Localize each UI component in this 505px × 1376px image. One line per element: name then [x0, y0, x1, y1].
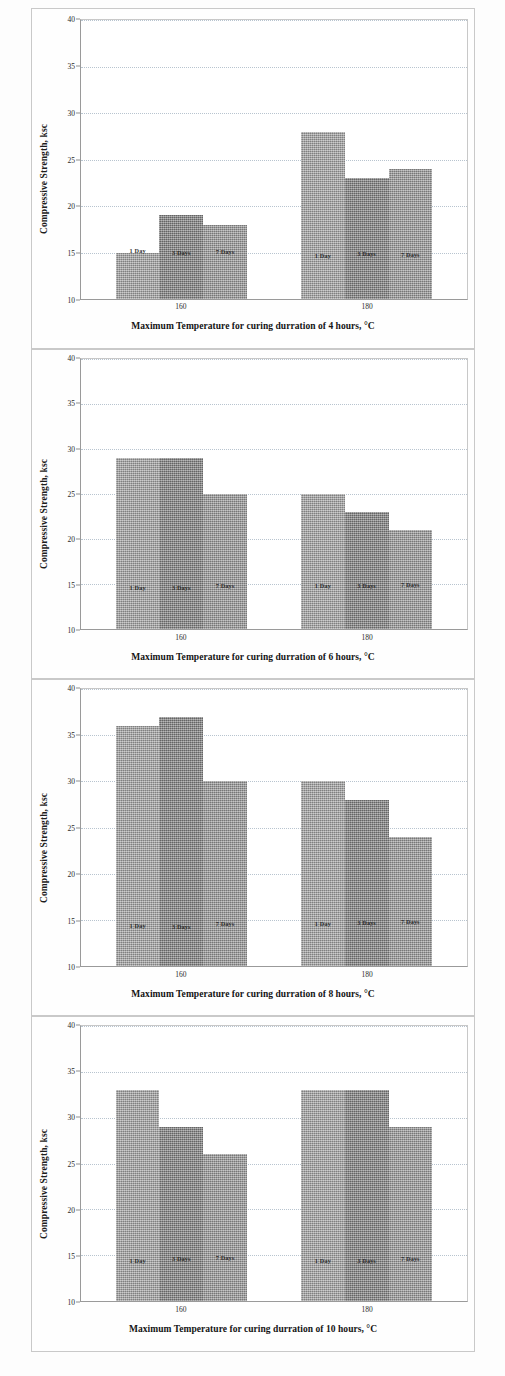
- y-axis-tick-label: 15: [68, 580, 76, 589]
- y-axis-title: Compressive Strength, ksc: [34, 680, 54, 1015]
- y-axis-tick-label: 35: [68, 1067, 76, 1076]
- bar-series-label: 7 Days: [389, 918, 433, 925]
- x-axis-title: Maximum Temperature for curing durration…: [32, 652, 474, 662]
- bar-fill: [301, 132, 345, 299]
- y-axis: 10152025303540: [54, 1025, 80, 1302]
- bar-fill: [301, 781, 345, 966]
- x-axis-ticks: 160180: [80, 633, 468, 647]
- bar-fill: [389, 530, 433, 629]
- y-axis-tick-label: 10: [68, 626, 76, 635]
- bar-180-3-days: 3 Days: [345, 512, 389, 629]
- y-axis-tick-label: 25: [68, 490, 76, 499]
- y-axis-tick-label: 20: [68, 870, 76, 879]
- x-axis-tick-label: 180: [361, 302, 372, 311]
- bar-series-label: 1 Day: [116, 1257, 160, 1264]
- bar-160-1-day: 1 Day: [116, 253, 160, 300]
- y-axis-tick-label: 30: [68, 777, 76, 786]
- chart-panel-8-hours: Compressive Strength, ksc 10152025303540…: [31, 679, 475, 1016]
- chart-panel-6-hours: Compressive Strength, ksc 10152025303540…: [31, 349, 475, 679]
- bar-fill: [345, 800, 389, 966]
- x-axis-ticks: 160180: [80, 970, 468, 984]
- bar-fill: [301, 494, 345, 629]
- bar-180-1-day: 1 Day: [301, 781, 345, 966]
- y-axis-tick-label: 35: [68, 61, 76, 70]
- bar-group-160: 1 Day3 Days7 Days: [116, 359, 247, 629]
- bar-layer: 1 Day3 Days7 Days1 Day3 Days7 Days: [81, 1026, 467, 1301]
- bar-fill: [203, 781, 247, 966]
- bar-fill: [389, 169, 433, 299]
- x-axis-tick-label: 160: [175, 633, 186, 642]
- bar-fill: [389, 1127, 433, 1301]
- y-axis-tick-label: 25: [68, 823, 76, 832]
- bar-160-3-days: 3 Days: [159, 215, 203, 299]
- bar-series-label: 7 Days: [389, 1255, 433, 1262]
- y-axis-tick-label: 30: [68, 1113, 76, 1122]
- bar-series-label: 3 Days: [159, 249, 203, 256]
- plot-area-wrapper: 10152025303540 1 Day3 Days7 Days1 Day3 D…: [54, 1025, 468, 1302]
- bar-series-label: 1 Day: [116, 584, 160, 591]
- bar-series-label: 3 Days: [159, 923, 203, 930]
- bar-series-label: 3 Days: [345, 582, 389, 589]
- y-axis-tick-label: 40: [68, 684, 76, 693]
- y-axis: 10152025303540: [54, 19, 80, 300]
- bar-fill: [159, 215, 203, 299]
- x-axis-ticks: 160180: [80, 302, 468, 316]
- bar-layer: 1 Day3 Days7 Days1 Day3 Days7 Days: [81, 20, 467, 299]
- bar-fill: [345, 512, 389, 629]
- x-axis-tick-label: 160: [175, 970, 186, 979]
- bar-group-180: 1 Day3 Days7 Days: [301, 359, 432, 629]
- bar-180-1-day: 1 Day: [301, 1090, 345, 1301]
- bar-series-label: 7 Days: [389, 251, 433, 258]
- bar-series-label: 3 Days: [345, 919, 389, 926]
- y-axis-tick-label: 30: [68, 108, 76, 117]
- bar-group-180: 1 Day3 Days7 Days: [301, 20, 432, 299]
- y-axis-tick-label: 20: [68, 202, 76, 211]
- x-axis-tick-label: 180: [361, 633, 372, 642]
- bar-160-7-days: 7 Days: [203, 225, 247, 299]
- y-axis-tick-label: 25: [68, 155, 76, 164]
- y-axis-title: Compressive Strength, ksc: [34, 1017, 54, 1351]
- bar-160-3-days: 3 Days: [159, 1127, 203, 1301]
- x-axis-tick-label: 160: [175, 302, 186, 311]
- y-axis-tick-label: 15: [68, 249, 76, 258]
- y-axis-tick-label: 40: [68, 354, 76, 363]
- x-axis-title: Maximum Temperature for curing durration…: [32, 1324, 474, 1334]
- bar-series-label: 1 Day: [301, 1257, 345, 1264]
- y-axis-title: Compressive Strength, ksc: [34, 9, 54, 348]
- bar-180-7-days: 7 Days: [389, 837, 433, 966]
- bar-series-label: 1 Day: [301, 582, 345, 589]
- bar-fill: [389, 837, 433, 966]
- bar-series-label: 3 Days: [159, 584, 203, 591]
- bar-fill: [301, 1090, 345, 1301]
- y-axis-tick-label: 30: [68, 444, 76, 453]
- bar-160-1-day: 1 Day: [116, 726, 160, 966]
- bar-160-7-days: 7 Days: [203, 781, 247, 966]
- y-axis-tick-label: 15: [68, 1251, 76, 1260]
- x-axis-ticks: 160180: [80, 1305, 468, 1319]
- bar-group-160: 1 Day3 Days7 Days: [116, 689, 247, 966]
- bar-160-3-days: 3 Days: [159, 458, 203, 629]
- bar-fill: [345, 1090, 389, 1301]
- y-axis-tick-label: 25: [68, 1159, 76, 1168]
- chart-panel-10-hours: Compressive Strength, ksc 10152025303540…: [31, 1016, 475, 1352]
- bar-group-160: 1 Day3 Days7 Days: [116, 20, 247, 299]
- bar-fill: [116, 253, 160, 300]
- bar-series-label: 1 Day: [301, 252, 345, 259]
- y-axis-tick-label: 40: [68, 15, 76, 24]
- bar-layer: 1 Day3 Days7 Days1 Day3 Days7 Days: [81, 359, 467, 629]
- x-axis-title: Maximum Temperature for curing durration…: [32, 989, 474, 999]
- y-axis-tick-label: 20: [68, 535, 76, 544]
- bar-180-1-day: 1 Day: [301, 494, 345, 629]
- plot-area: 1 Day3 Days7 Days1 Day3 Days7 Days: [80, 1025, 468, 1302]
- bar-series-label: 7 Days: [203, 582, 247, 589]
- chart-panel-4-hours: Compressive Strength, ksc 10152025303540…: [31, 8, 475, 349]
- bar-180-3-days: 3 Days: [345, 800, 389, 966]
- bar-fill: [116, 726, 160, 966]
- bar-180-1-day: 1 Day: [301, 132, 345, 299]
- bar-fill: [203, 225, 247, 299]
- y-axis-tick-label: 35: [68, 399, 76, 408]
- x-axis-tick-label: 180: [361, 970, 372, 979]
- bar-fill: [116, 458, 160, 629]
- bar-series-label: 7 Days: [203, 920, 247, 927]
- figure-sheet: Compressive Strength, ksc 10152025303540…: [0, 0, 505, 1376]
